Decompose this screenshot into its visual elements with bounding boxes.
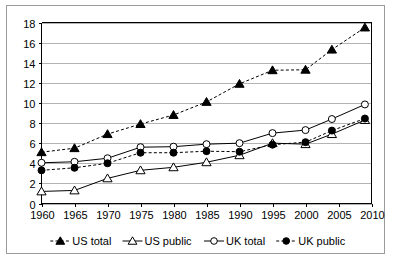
marker-circle-open — [269, 130, 276, 137]
y-tick-label: 6 — [29, 138, 35, 150]
legend-label: US total — [72, 235, 111, 247]
series-line — [42, 120, 365, 191]
x-tick-label: 1965 — [63, 209, 87, 221]
marker-circle-filled — [38, 167, 45, 174]
marker-circle-filled — [361, 115, 368, 122]
marker-triangle-filled — [202, 98, 211, 106]
x-tick-label: 2010 — [360, 209, 384, 221]
legend-label: UK public — [298, 235, 346, 247]
marker-circle-open — [236, 140, 243, 147]
x-tick-label: 1970 — [96, 209, 120, 221]
y-tick-label: 2 — [29, 178, 35, 190]
x-tick-label: 1995 — [261, 209, 285, 221]
line-chart: 0246810121416181960196519701975198019851… — [0, 0, 397, 265]
y-tick-label: 10 — [23, 98, 35, 110]
y-tick-label: 16 — [23, 38, 35, 50]
marker-circle-filled — [170, 149, 177, 156]
chart-figure: 0246810121416181960196519701975198019851… — [0, 0, 397, 265]
x-axis: 1960196519701975198019851990199520002005… — [30, 204, 384, 221]
series-us-public — [37, 116, 370, 195]
marker-circle-filled — [328, 127, 335, 134]
marker-circle-open — [211, 238, 218, 245]
legend-label: UK total — [226, 235, 265, 247]
marker-circle-open — [38, 159, 45, 166]
y-tick-label: 18 — [23, 18, 35, 30]
marker-triangle-filled — [169, 111, 178, 119]
y-axis: 024681012141618 — [23, 18, 41, 211]
marker-circle-filled — [236, 148, 243, 155]
marker-circle-open — [328, 116, 335, 123]
marker-triangle-filled — [301, 65, 310, 73]
marker-triangle-open — [70, 186, 79, 194]
marker-triangle-filled — [70, 144, 79, 152]
marker-circle-filled — [203, 148, 210, 155]
marker-circle-filled — [302, 139, 309, 146]
axes — [42, 23, 372, 204]
x-tick-label: 1975 — [129, 209, 153, 221]
series-line — [42, 28, 365, 153]
x-tick-label: 2005 — [327, 209, 351, 221]
y-tick-label: 8 — [29, 118, 35, 130]
marker-circle-filled — [71, 164, 78, 171]
marker-triangle-filled — [103, 130, 112, 138]
marker-circle-open — [302, 127, 309, 134]
marker-circle-filled — [137, 149, 144, 156]
series-uk-total — [38, 101, 368, 166]
x-tick-label: 1980 — [162, 209, 186, 221]
series-line — [42, 104, 365, 162]
marker-circle-open — [203, 141, 210, 148]
marker-circle-filled — [104, 160, 111, 167]
gridlines — [42, 24, 372, 205]
marker-circle-open — [361, 101, 368, 108]
legend-label: US public — [145, 235, 193, 247]
x-tick-label: 1985 — [195, 209, 219, 221]
marker-triangle-filled — [360, 23, 369, 31]
x-tick-label: 1990 — [228, 209, 252, 221]
x-tick-label: 1960 — [30, 209, 54, 221]
marker-triangle-filled — [37, 148, 46, 156]
marker-circle-filled — [283, 238, 290, 245]
y-tick-label: 14 — [23, 58, 35, 70]
plot-wrapper: 0246810121416181960196519701975198019851… — [0, 0, 397, 265]
y-tick-label: 4 — [29, 158, 35, 170]
marker-triangle-filled — [327, 45, 336, 53]
marker-circle-filled — [269, 141, 276, 148]
x-tick-label: 2000 — [294, 209, 318, 221]
y-tick-label: 12 — [23, 78, 35, 90]
chart-legend: US totalUS publicUK totalUK public — [50, 235, 345, 247]
